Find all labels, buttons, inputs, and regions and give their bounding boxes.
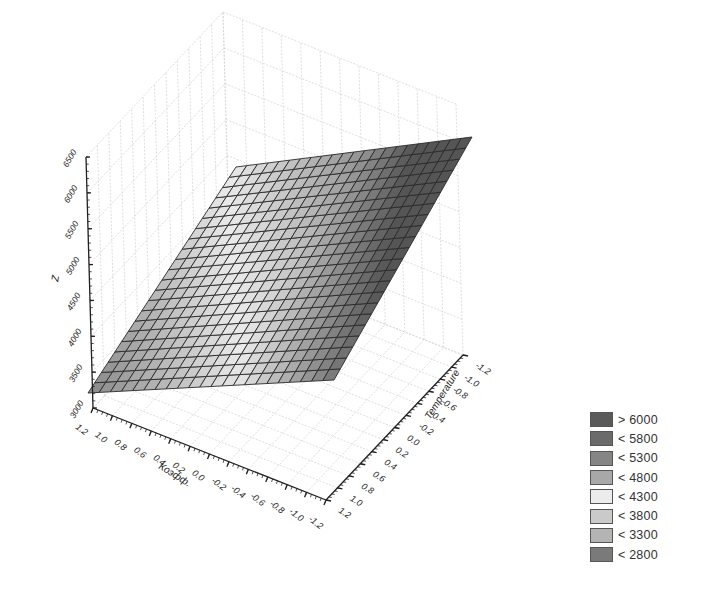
z-tick-label: 5500: [63, 219, 81, 241]
x-tick-label: -1.2: [307, 514, 325, 531]
legend-swatch: [590, 547, 613, 562]
legend-swatch: [590, 470, 613, 485]
z-tick-label: 4000: [66, 327, 84, 349]
y-tick-label: 1.2: [337, 505, 353, 520]
legend-item: < 4800: [590, 468, 700, 487]
legend-item: < 3800: [590, 506, 700, 525]
legend-item: < 4300: [590, 487, 700, 506]
legend-item: < 2800: [590, 545, 700, 564]
x-tick-label: 0.0: [190, 468, 206, 484]
y-tick-label: 1.0: [348, 493, 364, 508]
legend-item: < 5800: [590, 429, 700, 448]
legend-item: > 6000: [590, 410, 700, 429]
z-tick-label: 3000: [68, 398, 86, 420]
legend-label: < 5300: [618, 451, 658, 465]
legend-label: < 5800: [618, 432, 658, 446]
y-tick-label: 0.8: [360, 481, 376, 496]
x-tick-label: -0.6: [249, 491, 267, 508]
z-axis-title: Z: [49, 274, 61, 284]
y-tick-label: -1.2: [474, 360, 492, 377]
z-tick-label: 6500: [61, 147, 79, 169]
y-tick-label: 0.2: [394, 445, 410, 460]
legend-label: < 4800: [618, 471, 658, 485]
y-tick-label: 0.4: [383, 457, 399, 472]
legend-item: < 3300: [590, 526, 700, 545]
y-tick-label: -0.2: [417, 421, 435, 438]
z-tick-label: 4500: [65, 291, 83, 313]
x-tick-label: 1.2: [74, 422, 90, 438]
z-tick-label: 5000: [64, 255, 82, 277]
y-tick-label: 0.6: [371, 469, 387, 484]
legend-item: < 5300: [590, 449, 700, 468]
legend-label: < 3800: [618, 509, 658, 523]
y-tick-label: 0.0: [405, 433, 421, 448]
legend-swatch: [590, 489, 613, 504]
z-tick-label: 6000: [62, 183, 80, 205]
z-tick-label: 3500: [67, 362, 85, 384]
x-tick-label: -0.4: [229, 483, 247, 500]
legend-label: < 4300: [618, 490, 658, 504]
legend-swatch: [590, 451, 613, 466]
x-tick-label: -0.8: [268, 498, 286, 515]
legend-swatch: [590, 528, 613, 543]
legend-label: > 6000: [618, 413, 658, 427]
y-tick-label: -0.8: [451, 384, 469, 401]
legend-swatch: [590, 509, 613, 524]
legend-swatch: [590, 412, 613, 427]
x-tick-label: 0.6: [132, 445, 148, 461]
x-tick-label: 0.8: [113, 437, 129, 453]
x-tick-label: -1.0: [287, 506, 305, 523]
x-tick-label: -0.2: [210, 475, 228, 492]
legend-label: < 3300: [618, 528, 658, 542]
x-tick-label: 1.0: [93, 429, 109, 445]
legend-swatch: [590, 431, 613, 446]
color-legend: > 6000< 5800< 5300< 4800< 4300< 3800< 33…: [590, 410, 700, 564]
y-tick-label: -1.0: [463, 372, 481, 389]
legend-label: < 2800: [618, 548, 658, 562]
